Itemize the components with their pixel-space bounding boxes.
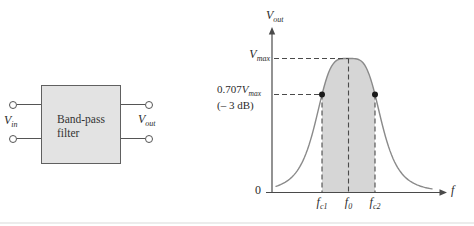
x-axis-arrow-icon xyxy=(440,189,448,195)
vmax-label: Vmax xyxy=(234,48,270,64)
cutoff-level-line2: (– 3 dB) xyxy=(217,99,254,111)
graph-y-axis-label: Vout xyxy=(266,9,284,25)
bandpass-filter-figure: Band-pass filter Vin Vout Vout Vmax 0.70… xyxy=(0,0,474,226)
f0-tick-label: f0 xyxy=(341,196,356,212)
fc1-tick-label: fc1 xyxy=(313,196,331,212)
frequency-response-plot xyxy=(0,0,474,226)
cutoff-level-line1: 0.707Vmax xyxy=(217,83,261,95)
fc2-point xyxy=(372,92,378,98)
cutoff-level-label: 0.707Vmax (– 3 dB) xyxy=(217,83,261,111)
fc2-tick-label: fc2 xyxy=(366,196,384,212)
page-edge-line xyxy=(0,222,474,224)
graph-x-axis-label: f xyxy=(451,184,454,197)
y-axis-arrow-icon xyxy=(269,27,275,35)
fc1-point xyxy=(319,92,325,98)
origin-label: 0 xyxy=(255,184,261,197)
